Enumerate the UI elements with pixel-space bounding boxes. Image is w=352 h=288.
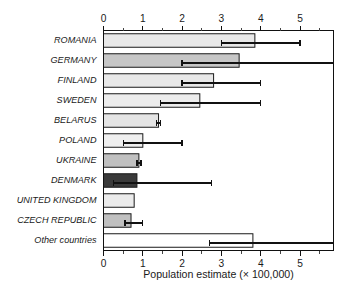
bar (104, 34, 255, 48)
bar (104, 214, 132, 228)
bar (104, 94, 200, 108)
bar (104, 154, 139, 168)
category-label: GERMANY (51, 55, 98, 65)
chart-canvas: ROMANIAGERMANYFINLANDSWEDENBELARUSPOLAND… (0, 0, 352, 288)
bar (104, 114, 159, 128)
bottom-axis-tick-labels: 012345 (101, 258, 304, 269)
x-tick-label-bottom: 4 (258, 258, 264, 269)
category-label: DENMARK (51, 175, 97, 185)
x-tick-label-bottom: 3 (219, 258, 225, 269)
category-label: FINLAND (58, 75, 97, 85)
x-tick-label-top: 2 (179, 13, 185, 24)
x-tick-label-top: 5 (297, 13, 303, 24)
x-tick-label-top: 4 (258, 13, 264, 24)
category-label: POLAND (59, 135, 97, 145)
bar (104, 74, 214, 88)
top-axis-ticks (104, 26, 320, 31)
category-label: Other countries (34, 235, 97, 245)
bar (104, 174, 137, 188)
x-tick-label-bottom: 2 (179, 258, 185, 269)
top-axis-tick-labels: 012345 (101, 13, 304, 24)
category-label: UKRAINE (56, 155, 97, 165)
category-label: BELARUS (54, 115, 96, 125)
bars-group (104, 34, 255, 248)
x-tick-label-top: 3 (219, 13, 225, 24)
bottom-axis-ticks (104, 251, 320, 256)
x-axis-title: Population estimate (× 100,000) (143, 268, 293, 280)
x-tick-label-bottom: 1 (140, 258, 146, 269)
bar (104, 234, 253, 248)
category-label: SWEDEN (57, 95, 97, 105)
x-tick-label-top: 0 (101, 13, 107, 24)
x-tick-label-bottom: 5 (297, 258, 303, 269)
bar-chart: ROMANIAGERMANYFINLANDSWEDENBELARUSPOLAND… (0, 0, 352, 288)
x-tick-label-top: 1 (140, 13, 146, 24)
bar (104, 54, 240, 68)
error-bars-group (113, 40, 333, 246)
category-label: ROMANIA (54, 35, 96, 45)
category-label: UNITED KINGDOM (17, 195, 97, 205)
x-tick-label-bottom: 0 (101, 258, 107, 269)
category-axis-labels: ROMANIAGERMANYFINLANDSWEDENBELARUSPOLAND… (17, 35, 98, 245)
category-label: CZECH REPUBLIC (17, 215, 97, 225)
bar (104, 194, 135, 208)
